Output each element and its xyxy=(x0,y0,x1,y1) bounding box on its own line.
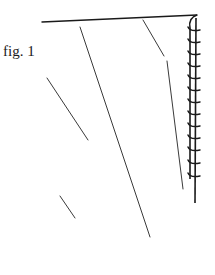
right-diagonal-upper xyxy=(143,20,164,56)
diagonal-lines xyxy=(47,20,183,237)
right-diagonal-lower xyxy=(167,61,183,189)
short-stub xyxy=(60,196,75,218)
left-diagonal xyxy=(47,78,88,140)
figure-drawing xyxy=(0,0,215,275)
ladder-right-rail xyxy=(195,18,196,203)
top-horizontal-line xyxy=(42,15,197,22)
figure-canvas: fig. 1 xyxy=(0,0,215,275)
middle-diagonal xyxy=(80,27,150,237)
vertical-ladder xyxy=(188,15,200,203)
